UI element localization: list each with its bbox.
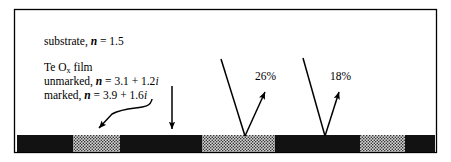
- film-title-suffix: film: [71, 61, 93, 73]
- figure-container: substrate, n = 1.5 Te Ox film unmarked, …: [0, 0, 451, 162]
- marked-index-value: = 3.9 + 1.6: [91, 89, 144, 101]
- substrate-label: substrate, n = 1.5: [44, 35, 124, 49]
- film-segment-marked-3: [360, 135, 405, 152]
- marked-imaginary-unit: i: [144, 89, 147, 101]
- marked-prefix: marked,: [44, 89, 84, 101]
- film-title-line: Te Ox film: [44, 61, 159, 75]
- unmarked-index-value: = 3.1 + 1.2: [102, 75, 155, 87]
- reflectance-label-marked: 18%: [330, 70, 351, 84]
- substrate-text: substrate,: [44, 35, 91, 47]
- unmarked-imaginary-unit: i: [155, 75, 158, 87]
- marked-index-line: marked, n = 3.9 + 1.6i: [44, 89, 159, 103]
- unmarked-prefix: unmarked,: [44, 75, 96, 87]
- substrate-index-value: = 1.5: [97, 35, 124, 47]
- film-segment-marked-1: [73, 135, 120, 152]
- film-title-prefix: Te O: [44, 61, 67, 73]
- film-segment-marked-2: [202, 135, 275, 152]
- unmarked-index-line: unmarked, n = 3.1 + 1.2i: [44, 75, 159, 89]
- film-description-block: Te Ox film unmarked, n = 3.1 + 1.2i mark…: [44, 61, 159, 103]
- reflectance-label-unmarked: 26%: [255, 70, 276, 84]
